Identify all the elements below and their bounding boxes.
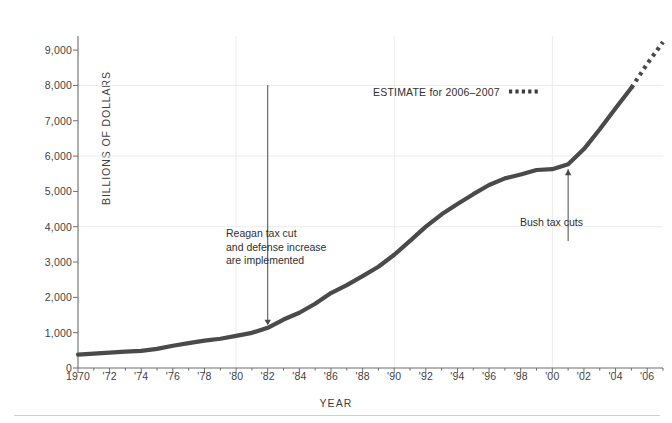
x-tick-label: '76	[166, 370, 180, 382]
annotation-reagan-line3: are implemented	[226, 254, 326, 268]
y-axis-tick-labels: 01,0002,0003,0004,0005,0006,0007,0008,00…	[22, 36, 72, 368]
annotation-reagan-line1: Reagan tax cut	[226, 227, 326, 241]
estimate-legend-swatch	[508, 88, 542, 95]
x-axis-tick-labels: 1970'72'74'76'78'80'82'84'86'88'90'92'94…	[0, 370, 672, 388]
data-line-estimate-dotted	[631, 42, 663, 88]
x-tick-label: '98	[514, 370, 528, 382]
x-tick-label: '74	[134, 370, 148, 382]
y-tick-label: 5,000	[26, 185, 72, 197]
y-tick-label: 8,000	[26, 79, 72, 91]
x-tick-label: '82	[261, 370, 275, 382]
x-tick-label: '80	[229, 370, 243, 382]
y-tick-label: 9,000	[26, 44, 72, 56]
x-tick-label: '00	[545, 370, 559, 382]
y-tick-label: 3,000	[26, 256, 72, 268]
x-tick-label: '90	[387, 370, 401, 382]
x-axis-title: YEAR	[0, 397, 672, 409]
y-tick-label: 1,000	[26, 327, 72, 339]
annotation-bush: Bush tax cuts	[520, 216, 583, 230]
x-tick-label: '02	[577, 370, 591, 382]
gridlines	[78, 36, 663, 368]
plot-canvas	[78, 36, 663, 368]
axis-ticks	[73, 50, 663, 373]
x-tick-label: '96	[482, 370, 496, 382]
y-tick-label: 4,000	[26, 221, 72, 233]
x-tick-label: '84	[292, 370, 306, 382]
chart-figure: 01,0002,0003,0004,0005,0006,0007,0008,00…	[0, 0, 672, 423]
annotation-arrows	[265, 85, 572, 325]
y-tick-label: 6,000	[26, 150, 72, 162]
estimate-legend-text: ESTIMATE for 2006–2007	[373, 86, 500, 98]
estimate-legend-label: ESTIMATE for 2006–2007	[373, 86, 542, 98]
x-tick-label: '72	[102, 370, 116, 382]
x-tick-label: '78	[197, 370, 211, 382]
x-tick-label: '94	[450, 370, 464, 382]
annotation-reagan-line2: and defense increase	[226, 241, 326, 255]
y-tick-label: 7,000	[26, 115, 72, 127]
x-tick-label: '88	[355, 370, 369, 382]
annotation-reagan: Reagan tax cut and defense increase are …	[226, 227, 326, 268]
plot-area: BILLIONS OF DOLLARS	[78, 36, 663, 368]
x-tick-label: '92	[419, 370, 433, 382]
x-tick-label: '06	[640, 370, 654, 382]
x-tick-label: '86	[324, 370, 338, 382]
x-tick-label: 1970	[66, 370, 90, 382]
x-tick-label: '04	[608, 370, 622, 382]
clipped-title-text	[88, 0, 558, 1]
y-tick-label: 2,000	[26, 291, 72, 303]
footer-divider	[14, 415, 660, 416]
